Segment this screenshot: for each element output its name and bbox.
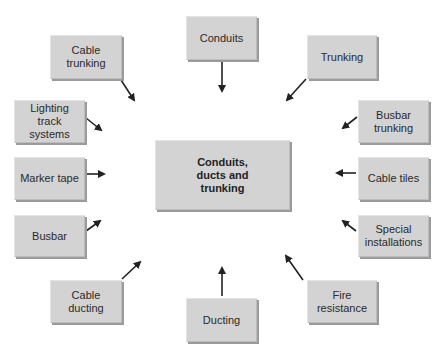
node-label-line: Conduits	[200, 32, 243, 45]
arrow-busbar	[86, 221, 100, 231]
node-label-line: Busbar	[374, 109, 413, 122]
node-label-line: installations	[365, 236, 422, 249]
node-label-line: Marker tape	[20, 172, 79, 185]
node-label-line: Cable tiles	[368, 172, 419, 185]
node-marker-tape: Marker tape	[14, 157, 85, 200]
node-cable-ducting: Cableducting	[50, 280, 122, 323]
node-fire-resistance: Fireresistance	[307, 280, 377, 323]
node-label-line: Cable	[68, 289, 103, 302]
center-node-conduits-ducts-trunking: Conduits, ducts and trunking	[155, 140, 290, 210]
node-label-line: trunking	[66, 57, 105, 70]
node-label-line: resistance	[317, 302, 367, 315]
node-label-line: Cable	[66, 44, 105, 57]
node-label-line: Busbar	[32, 230, 67, 243]
node-label-line: Trunking	[321, 51, 363, 64]
arrow-trunking	[287, 79, 306, 100]
node-trunking: Trunking	[307, 35, 377, 79]
node-cable-trunking: Cabletrunking	[50, 35, 122, 79]
node-special-installations: Specialinstallations	[358, 215, 429, 257]
node-label-line: Ducting	[203, 314, 240, 327]
node-label-line: Lighting	[29, 102, 69, 115]
arrow-lighting-track-systems	[86, 118, 101, 130]
node-label-line: track	[29, 115, 69, 128]
node-busbar: Busbar	[14, 215, 85, 257]
center-label-line: ducts and	[197, 169, 249, 182]
center-label-line: trunking	[197, 182, 249, 195]
node-busbar-trunking: Busbartrunking	[358, 100, 429, 143]
node-lighting-track-systems: Lightingtracksystems	[14, 100, 85, 143]
arrow-fire-resistance	[286, 256, 303, 280]
arrow-cable-ducting	[122, 262, 140, 279]
arrow-busbar-trunking	[343, 117, 357, 128]
arrow-cable-trunking	[121, 80, 134, 100]
node-conduits: Conduits	[186, 16, 257, 60]
node-cable-tiles: Cable tiles	[358, 157, 429, 200]
node-label-line: trunking	[374, 122, 413, 135]
node-label-line: Special	[365, 223, 422, 236]
node-label-line: systems	[29, 128, 69, 141]
center-label-line: Conduits,	[197, 156, 249, 169]
node-label-line: Fire	[317, 289, 367, 302]
arrow-special-installations	[343, 221, 356, 231]
node-label-line: ducting	[68, 302, 103, 315]
node-ducting: Ducting	[186, 298, 257, 342]
